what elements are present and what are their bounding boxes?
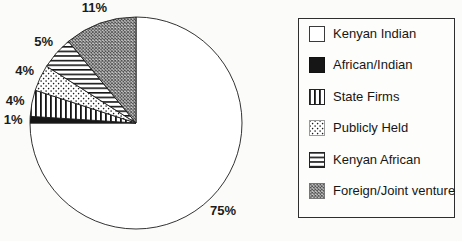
- legend-item-state-firms: State Firms: [309, 89, 446, 105]
- pie-chart: 75%1%4%4%5%11%: [0, 0, 280, 241]
- legend-box: Kenyan Indian African/Indian State Firms…: [298, 18, 455, 218]
- legend-item-publicly-held: Publicly Held: [309, 120, 446, 136]
- slice-percentage-label: 4%: [15, 63, 34, 78]
- legend-item-foreign-joint-venture: Foreign/Joint venture: [309, 183, 446, 199]
- legend-label: Foreign/Joint venture: [333, 183, 455, 199]
- legend-item-kenyan-african: Kenyan African: [309, 152, 446, 168]
- legend-label: African/Indian: [333, 57, 413, 73]
- legend-swatch-vertical-lines-icon: [309, 89, 325, 105]
- pie-slices: [30, 17, 242, 229]
- slice-percentage-label: 1%: [4, 112, 23, 127]
- legend-label: Kenyan African: [333, 152, 420, 168]
- pie-chart-figure: 75%1%4%4%5%11% Kenyan Indian African/Ind…: [0, 0, 462, 241]
- legend-label: State Firms: [333, 89, 399, 105]
- slice-percentage-label: 11%: [82, 0, 108, 15]
- slice-percentage-label: 75%: [210, 203, 236, 218]
- legend-swatch-diagonal-crosshatch-icon: [309, 183, 325, 199]
- slice-percentage-label: 4%: [6, 93, 25, 108]
- legend-swatch-solid-black-icon: [309, 57, 325, 73]
- legend-label: Kenyan Indian: [333, 26, 416, 42]
- legend-item-african-indian: African/Indian: [309, 57, 446, 73]
- legend-label: Publicly Held: [333, 120, 408, 136]
- legend-swatch-horizontal-lines-icon: [309, 152, 325, 168]
- legend-swatch-dots-icon: [309, 120, 325, 136]
- legend-swatch-plain-white-icon: [309, 26, 325, 42]
- slice-percentage-label: 5%: [34, 34, 53, 49]
- legend-item-kenyan-indian: Kenyan Indian: [309, 26, 446, 42]
